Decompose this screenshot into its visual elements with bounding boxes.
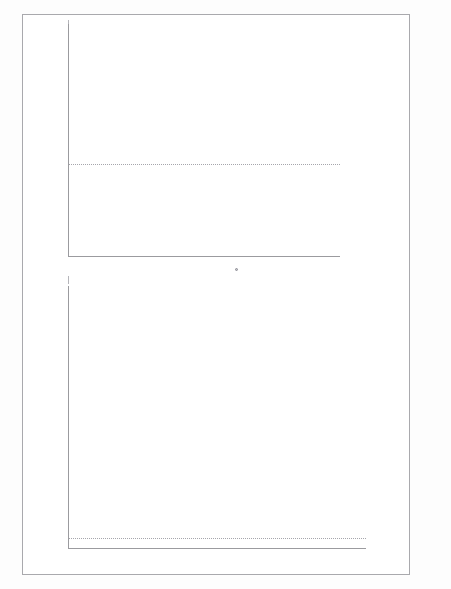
bottom-zero-reference-line: [69, 538, 366, 539]
top-scatter-figure: [30, 18, 370, 280]
bottom-plot-area: [30, 286, 390, 568]
top-plot-area: [30, 18, 370, 280]
bottom-y-axis-line: [68, 286, 69, 548]
top-zero-reference-line: [69, 164, 340, 165]
top-y-axis-line: [68, 24, 69, 256]
top-x-axis-line: [68, 256, 340, 257]
bottom-scatter-figure: [30, 286, 390, 568]
scan-artifact-tick-lower: [68, 276, 69, 284]
bottom-x-axis-line: [68, 548, 366, 549]
scan-speck-a: [235, 268, 238, 271]
figure-page: [0, 0, 451, 589]
